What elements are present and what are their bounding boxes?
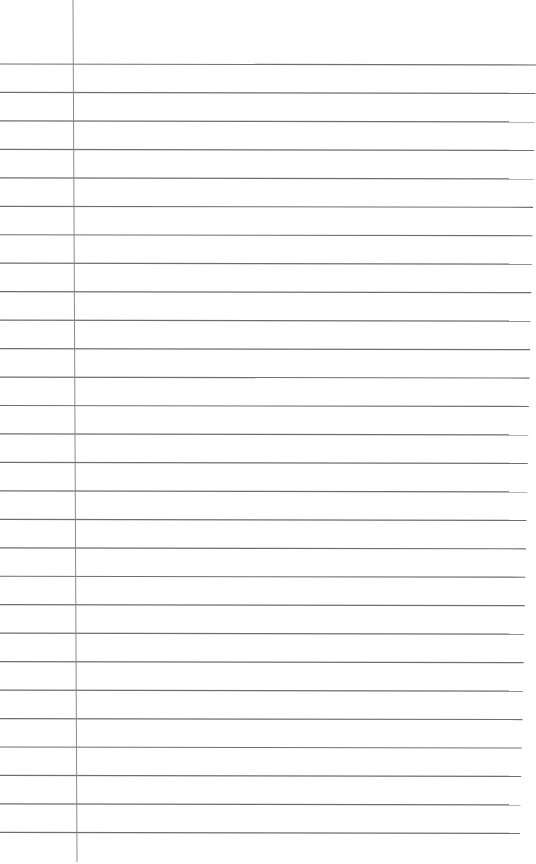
ruled-line [0,178,534,179]
lined-paper-sheet [0,0,536,864]
ruled-line [0,690,523,691]
ruled-line [0,235,532,236]
ruled-line [0,719,522,720]
ruled-line [0,633,524,634]
ruled-line [0,804,521,805]
ruled-line [0,747,522,748]
ruled-line [0,605,525,606]
ruled-line [0,775,521,776]
ruled-line [0,121,535,122]
ruled-line [0,406,529,407]
ruled-line [0,548,526,549]
ruled-line [0,292,531,293]
ruled-line [0,832,520,833]
ruled-line [0,206,533,207]
ruled-line [0,92,535,93]
ruled-line [0,64,536,65]
ruled-lines [0,0,536,864]
ruled-line [0,434,528,435]
ruled-line [0,263,532,264]
ruled-line [0,662,524,663]
ruled-line [0,491,527,492]
ruled-line [0,377,529,378]
margin-line [73,0,77,862]
ruled-line [0,576,525,577]
ruled-line [0,519,527,520]
ruled-line [0,320,531,321]
ruled-line [0,349,530,350]
ruled-line [0,149,534,150]
ruled-line [0,462,528,463]
